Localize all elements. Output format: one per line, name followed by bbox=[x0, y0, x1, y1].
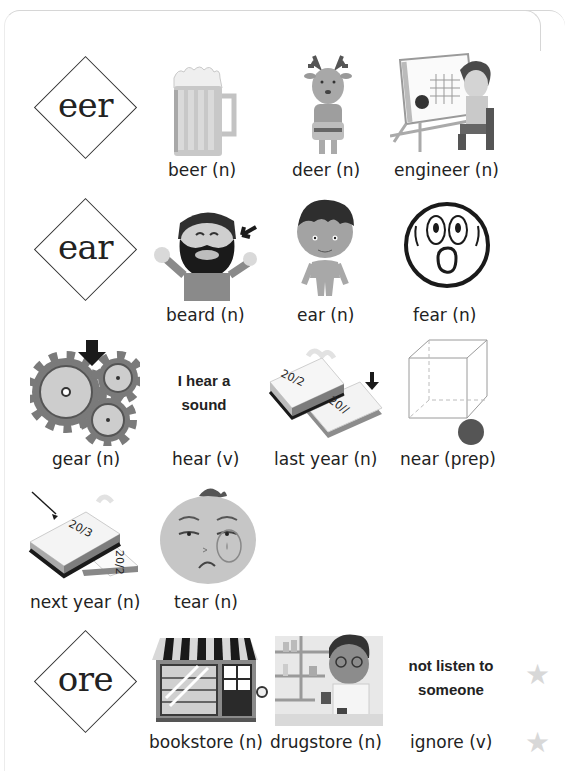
pharmacist-icon bbox=[275, 630, 383, 726]
svg-text:20/2: 20/2 bbox=[113, 550, 126, 575]
star-icon: ★ bbox=[525, 658, 550, 691]
phrase-ignore: not listen to someone bbox=[395, 654, 507, 702]
word-drugstore: drugstore (n) bbox=[270, 732, 382, 752]
cube-ball-icon bbox=[405, 338, 495, 446]
word-gear: gear (n) bbox=[52, 449, 120, 469]
phrase-line: I hear a bbox=[158, 369, 250, 393]
beer-mug-icon bbox=[168, 60, 242, 160]
crying-face-icon bbox=[155, 486, 261, 586]
boy-ear-icon bbox=[290, 196, 360, 300]
word-ignore: ignore (v) bbox=[410, 732, 493, 752]
calendar-2012-2011-icon: 20/2 20// bbox=[268, 342, 388, 444]
page-border-corner bbox=[510, 10, 541, 51]
gears-icon bbox=[30, 340, 140, 446]
word-ear: ear (n) bbox=[297, 305, 354, 325]
deer-icon bbox=[302, 52, 354, 162]
pattern-diamond-ear: ear bbox=[49, 213, 122, 286]
word-engineer: engineer (n) bbox=[394, 160, 499, 180]
word-beer: beer (n) bbox=[168, 160, 236, 180]
pattern-label: ear bbox=[29, 227, 142, 267]
calendar-2013-2012-icon: 20/3 20/2 bbox=[28, 490, 140, 586]
bookstore-icon bbox=[152, 636, 268, 724]
phrase-line: not listen to bbox=[395, 654, 507, 678]
pattern-diamond-ore: ore bbox=[49, 645, 122, 718]
phrase-line: sound bbox=[158, 393, 250, 417]
phrase-hear: I hear a sound bbox=[158, 369, 250, 417]
pattern-label: ore bbox=[29, 659, 142, 699]
word-bookstore: bookstore (n) bbox=[149, 732, 263, 752]
word-hear: hear (v) bbox=[172, 449, 239, 469]
word-tear: tear (n) bbox=[174, 592, 238, 612]
word-deer: deer (n) bbox=[292, 160, 360, 180]
word-fear: fear (n) bbox=[413, 305, 476, 325]
pattern-label: eer bbox=[29, 85, 142, 125]
scared-face-icon bbox=[402, 200, 492, 290]
word-beard: beard (n) bbox=[166, 305, 245, 325]
pattern-diamond-eer: eer bbox=[49, 71, 122, 144]
star-icon: ★ bbox=[525, 726, 550, 759]
word-next-year: next year (n) bbox=[30, 592, 140, 612]
word-last-year: last year (n) bbox=[274, 449, 377, 469]
word-near: near (prep) bbox=[400, 449, 496, 469]
engineer-icon bbox=[390, 52, 502, 156]
bearded-man-icon bbox=[150, 205, 264, 301]
phrase-line: someone bbox=[395, 678, 507, 702]
